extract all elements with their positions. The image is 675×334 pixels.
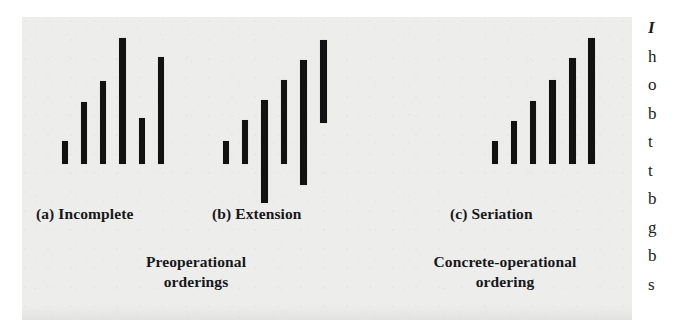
text-column-line: h: [648, 43, 675, 72]
text-column-line: b: [648, 185, 675, 214]
bar-a-4: [119, 38, 126, 164]
bar-b-3: [261, 100, 268, 203]
panel-label-c: (c) Seriation: [450, 205, 533, 223]
panel-label-a: (a) Incomplete: [36, 205, 133, 223]
text-column-line: t: [648, 157, 675, 186]
bar-b-1: [223, 141, 229, 164]
bar-a-5: [139, 118, 145, 164]
panel-label-b: (b) Extension: [212, 205, 302, 223]
bar-c-2: [511, 121, 517, 164]
bar-b-2: [242, 120, 248, 164]
text-column-line: o: [648, 71, 675, 100]
bar-a-2: [81, 102, 87, 164]
bar-b-5: [300, 60, 307, 185]
bar-b-4: [281, 80, 287, 164]
scanned-page: (a) Incomplete (b) Extension (c) Seriati…: [0, 0, 675, 334]
bar-a-3: [100, 81, 106, 164]
bar-b-6: [320, 40, 327, 123]
bar-a-1: [62, 141, 68, 164]
bar-c-5: [569, 58, 576, 164]
caption-line-2: ordering: [200, 272, 675, 292]
figure-panel: (a) Incomplete (b) Extension (c) Seriati…: [22, 17, 632, 320]
text-column-line: b: [648, 242, 675, 271]
text-column-line: g: [648, 214, 675, 243]
bar-c-4: [549, 80, 556, 164]
text-column-line: s: [648, 271, 675, 300]
bar-c-3: [530, 101, 536, 164]
text-column-line: b: [648, 100, 675, 129]
body-text-column: Ihobttbgbs: [648, 14, 675, 320]
bar-c-1: [492, 141, 498, 164]
text-column-line: t: [648, 128, 675, 157]
caption-concrete-operational: Concrete-operational ordering: [200, 252, 675, 292]
caption-line-1: Concrete-operational: [200, 252, 675, 272]
bar-c-6: [588, 38, 595, 164]
bar-a-6: [158, 57, 164, 164]
text-column-line: I: [648, 14, 675, 43]
